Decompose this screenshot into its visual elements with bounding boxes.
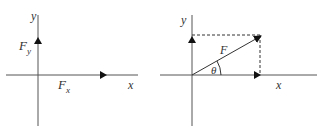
theta-label: θ <box>211 64 217 76</box>
force-components-figure: y x Fy Fx y x F θ <box>0 0 317 129</box>
fx-label: Fx <box>57 77 70 95</box>
right-y-axis-label: y <box>180 13 187 27</box>
right-diagram: y x F θ <box>160 13 317 126</box>
right-x-axis-label: x <box>275 78 282 92</box>
left-diagram: y x Fy Fx <box>6 9 138 126</box>
fy-arrowhead-icon <box>34 37 42 44</box>
fy-label: Fy <box>18 38 31 56</box>
left-y-axis-label: y <box>30 9 37 23</box>
left-x-axis-label: x <box>127 78 134 92</box>
angle-arc <box>217 61 221 75</box>
fx-arrowhead-icon <box>100 71 107 79</box>
y-component-arrowhead-icon <box>188 36 196 43</box>
force-vector-label: F <box>219 43 228 57</box>
